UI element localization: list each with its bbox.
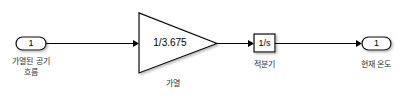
diagram-canvas xyxy=(0,0,404,95)
arrowhead-1 xyxy=(133,40,139,47)
inport-number: 1 xyxy=(16,38,46,49)
inport-label-line2: 흐름 xyxy=(1,68,61,78)
outport-label: 현재 온도 xyxy=(351,60,401,70)
gain-value: 1/3.675 xyxy=(145,37,195,49)
outport-number: 1 xyxy=(362,38,391,49)
integrator-label: 적분기 xyxy=(244,60,284,70)
gain-label: 가열 xyxy=(158,79,188,89)
integrator-value: 1/s xyxy=(254,38,275,49)
inport-label-line1: 가열된 공기 xyxy=(1,57,61,67)
